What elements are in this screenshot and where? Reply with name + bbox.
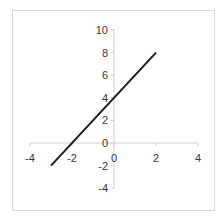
y-tick-label: 0 bbox=[102, 137, 108, 149]
line-chart: 1086420-2-4 -4-224 0 bbox=[0, 0, 223, 221]
y-tick-label: -4 bbox=[98, 182, 108, 194]
origin-label: 0 bbox=[111, 152, 117, 164]
y-tick-label: 6 bbox=[102, 69, 108, 81]
y-tick-label: 2 bbox=[102, 114, 108, 126]
y-tick-label: 4 bbox=[102, 92, 108, 104]
x-tick-label: 4 bbox=[195, 152, 201, 164]
x-tick-label: -4 bbox=[25, 152, 35, 164]
y-tick-label: 10 bbox=[96, 24, 108, 36]
y-tick-label: -2 bbox=[98, 160, 108, 172]
x-tick-label: 2 bbox=[153, 152, 159, 164]
y-tick-labels: 1086420-2-4 bbox=[96, 24, 108, 194]
y-tick-label: 8 bbox=[102, 47, 108, 59]
x-tick-label: -2 bbox=[67, 152, 77, 164]
